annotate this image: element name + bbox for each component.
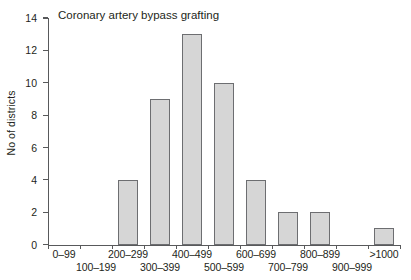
y-tick-label: 8 [31, 109, 37, 121]
x-axis-tick-label: 500–599 [204, 261, 244, 273]
y-tick-mark [43, 82, 48, 83]
y-tick-label: 14 [25, 12, 37, 24]
y-tick-label: 6 [31, 142, 37, 154]
y-tick-mark [43, 179, 48, 180]
bar [278, 212, 298, 244]
y-tick-label: 2 [31, 206, 37, 218]
x-axis-tick-label: 900–999 [332, 261, 372, 273]
x-axis-tick-label: 0–99 [53, 248, 76, 260]
x-axis-tick-label: 100–199 [76, 261, 116, 273]
y-tick-label: 0 [31, 239, 37, 251]
x-axis-tick-label: >1000 [370, 248, 399, 260]
y-axis-title: No of districts [0, 0, 22, 246]
y-axis-title-text: No of districts [5, 90, 17, 155]
x-axis-tick-label: 300–399 [140, 261, 180, 273]
x-axis-line [48, 245, 400, 246]
y-tick-mark [43, 50, 48, 51]
y-tick-label: 12 [25, 44, 37, 56]
x-axis-tick-label: 400–499 [172, 248, 212, 260]
x-axis-tick-label: 700–799 [268, 261, 308, 273]
bar [246, 180, 266, 245]
plot-area: 02468101214 [48, 18, 400, 246]
bar [310, 212, 330, 244]
y-tick-mark [43, 17, 48, 18]
y-axis-line [48, 18, 49, 246]
y-tick-mark [43, 115, 48, 116]
y-tick-mark [43, 147, 48, 148]
bar [214, 83, 234, 245]
bar [118, 180, 138, 245]
histogram-chart: No of districts Coronary artery bypass g… [0, 0, 411, 280]
bar [150, 99, 170, 245]
x-axis-tick-label: 600–699 [236, 248, 276, 260]
bar [182, 34, 202, 244]
bar [374, 228, 394, 244]
y-tick-label: 10 [25, 77, 37, 89]
x-axis-labels: 0–99100–199200–299300–399400–499500–5996… [48, 248, 400, 278]
x-axis-tick-label: 200–299 [108, 248, 148, 260]
y-tick-label: 4 [31, 174, 37, 186]
y-tick-mark [43, 212, 48, 213]
x-axis-tick-label: 800–899 [300, 248, 340, 260]
x-tick-mark [400, 245, 401, 249]
